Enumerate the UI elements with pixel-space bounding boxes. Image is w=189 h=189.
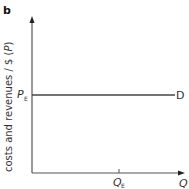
price-label-main: P <box>17 88 24 101</box>
y-axis-arrow-icon <box>30 16 35 23</box>
price-label-sub: E <box>24 95 28 102</box>
y-axis-title-text: costs and revenues / $ ( <box>3 51 14 172</box>
price-label: P <box>17 88 24 101</box>
quantity-tick-sub: E <box>121 182 125 189</box>
demand-curve-label: D <box>176 89 184 102</box>
panel-label: b <box>3 4 11 17</box>
x-axis-arrow-icon <box>178 171 185 176</box>
diagram-canvas: b costs and revenues / $ (P) D P E Q E Q <box>0 0 189 189</box>
x-axis-label: Q <box>179 177 188 189</box>
y-axis-title: costs and revenues / $ (P) <box>3 42 14 172</box>
svg-text:costs and revenues / $ (P): costs and revenues / $ (P) <box>3 42 14 172</box>
y-axis-title-close: ) <box>3 42 14 46</box>
